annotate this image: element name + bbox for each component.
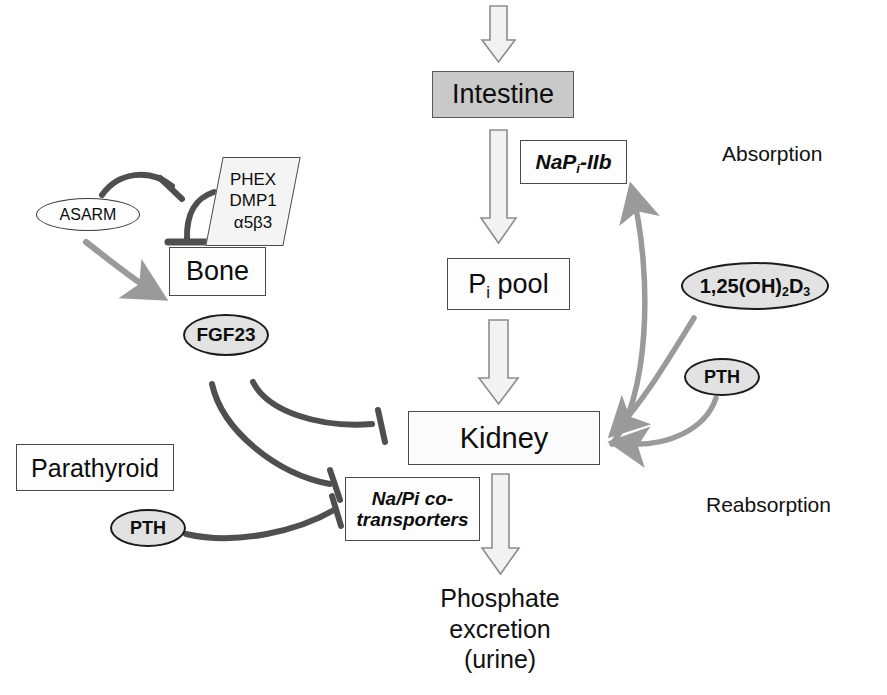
regulator-dmp1: DMP1 <box>229 191 276 212</box>
excretion-line2: excretion <box>400 614 600 645</box>
inhibition-bar-fgf23-cotransporters <box>330 470 340 500</box>
regulator-alpha5beta3: α5β3 <box>234 212 273 233</box>
node-bone-regulators[interactable]: PHEX DMP1 α5β3 <box>205 157 300 246</box>
node-kidney-label: Kidney <box>460 422 549 454</box>
node-na-pi-cotransporters[interactable]: Na/Pi co- transporters <box>345 477 480 541</box>
block-arrow-kidney-to-excretion <box>482 474 519 574</box>
node-intestine[interactable]: Intestine <box>432 71 574 118</box>
edge-asarm-inhibits-regulators <box>102 175 172 195</box>
node-vitamin-d[interactable]: 1,25(OH)2D3 <box>681 262 829 310</box>
edge-pth-right-to-kidney <box>616 398 716 444</box>
edge-kidney-to-napi-iib <box>612 190 645 444</box>
node-pth-right[interactable]: PTH <box>684 358 760 396</box>
node-pth-left[interactable]: PTH <box>110 509 186 547</box>
node-bone-label: Bone <box>186 256 249 286</box>
node-parathyroid[interactable]: Parathyroid <box>16 444 174 491</box>
node-bone[interactable]: Bone <box>169 247 266 296</box>
regulator-phex: PHEX <box>230 169 276 190</box>
node-asarm[interactable]: ASARM <box>36 198 140 231</box>
caption-reabsorption: Reabsorption <box>706 492 876 518</box>
excretion-line1: Phosphate <box>400 583 600 614</box>
edge-pth-left-inhibits-cotransporters <box>186 510 334 538</box>
node-asarm-label: ASARM <box>60 206 117 224</box>
node-parathyroid-label: Parathyroid <box>31 454 159 482</box>
node-fgf23[interactable]: FGF23 <box>183 314 269 356</box>
node-bone-regulators-stack: PHEX DMP1 α5β3 <box>215 169 291 233</box>
node-pi-pool-label: Pi pool <box>468 269 548 299</box>
node-pi-pool[interactable]: Pi pool <box>447 258 570 310</box>
node-pth-left-label: PTH <box>130 518 166 538</box>
caption-absorption: Absorption <box>722 141 872 167</box>
block-arrow-intestine-to-pi-pool <box>481 130 516 243</box>
node-intestine-label: Intestine <box>452 79 554 109</box>
node-pth-right-label: PTH <box>704 367 740 387</box>
block-arrow-dietary-to-intestine <box>482 6 515 62</box>
node-napi-iib-label: NaPi-IIb <box>536 150 612 174</box>
caption-reabsorption-label: Reabsorption <box>706 493 831 516</box>
inhibition-bar-pth-left <box>332 496 341 526</box>
edge-asarm-to-bone <box>86 242 160 296</box>
block-arrow-pi-pool-to-kidney <box>479 320 518 404</box>
cotransporters-line1: Na/Pi co- <box>372 488 453 509</box>
caption-absorption-label: Absorption <box>722 142 822 165</box>
inhibition-bar-asarm <box>160 178 182 199</box>
edge-vitd-to-kidney <box>614 318 694 432</box>
cotransporters-line2: transporters <box>357 509 469 530</box>
node-vitamin-d-label: 1,25(OH)2D3 <box>700 275 811 297</box>
edge-fgf23-inhibits-kidney <box>253 382 372 425</box>
edge-fgf23-inhibits-cotransporters <box>212 384 330 484</box>
pathway-diagram: Intestine NaPi-IIb Pi pool Kidney Bone P… <box>0 0 887 695</box>
node-fgf23-label: FGF23 <box>196 324 255 345</box>
node-kidney[interactable]: Kidney <box>408 411 600 465</box>
caption-phosphate-excretion: Phosphate excretion (urine) <box>400 583 600 675</box>
inhibition-bar-fgf23-kidney <box>378 410 385 442</box>
excretion-line3: (urine) <box>400 644 600 675</box>
node-napi-iib[interactable]: NaPi-IIb <box>520 140 627 184</box>
